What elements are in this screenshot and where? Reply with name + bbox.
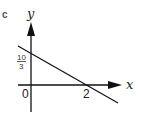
y-tick-numerator: 10 — [17, 53, 26, 62]
y-tick-denominator: 3 — [19, 62, 24, 71]
origin-label: 0 — [22, 87, 29, 101]
x-axis-arrow-icon — [108, 81, 122, 89]
y-axis-arrow-icon — [27, 22, 35, 36]
y-axis-label: y — [26, 6, 35, 21]
x-tick-label: 2 — [83, 87, 90, 101]
plotted-line — [18, 46, 118, 103]
line-graph: y x 0 2 10 3 — [0, 0, 141, 116]
x-axis-label: x — [126, 77, 134, 92]
